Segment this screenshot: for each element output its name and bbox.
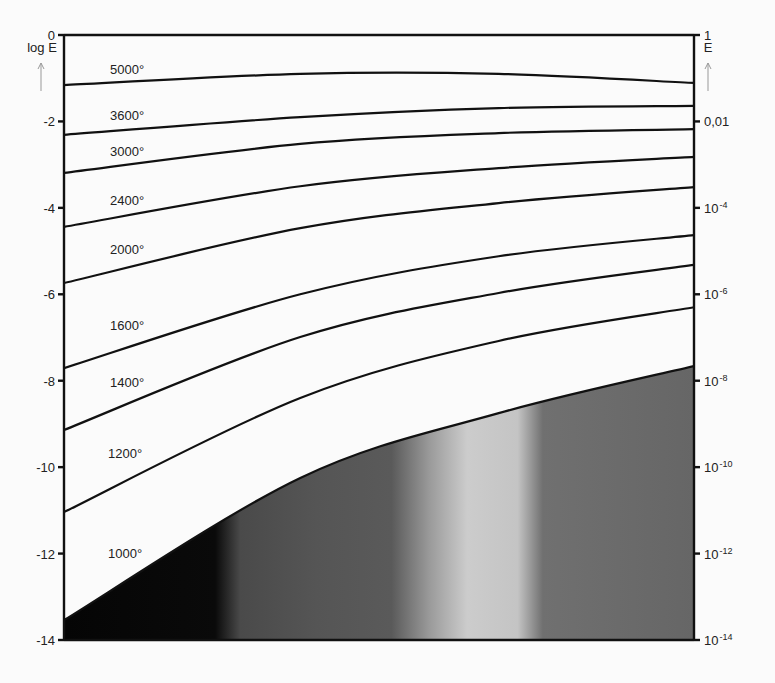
right-axis-e: 10,0110-410-610-810-1010-1210-14E: [694, 28, 732, 648]
right-tick-label: 0,01: [704, 114, 729, 129]
left-tick-label: -12: [36, 547, 55, 562]
curve-label: 2000°: [110, 242, 144, 257]
curve-label: 1400°: [110, 375, 144, 390]
curve-label: 5000°: [110, 62, 144, 77]
right-axis-title: E: [704, 40, 713, 55]
right-tick-label: 10-4: [704, 200, 727, 216]
left-tick-label: -6: [43, 287, 55, 302]
curve-label: 3600°: [110, 108, 144, 123]
curve-1600-deg: [64, 235, 694, 368]
left-tick-label: -2: [43, 114, 55, 129]
left-axis-title: log E: [27, 40, 57, 55]
right-tick-label: 10-12: [704, 546, 732, 562]
right-tick-label: 10-14: [704, 632, 732, 648]
curve-label: 2400°: [110, 193, 144, 208]
curve-5000-deg: [64, 73, 694, 86]
thermal-emission-chart: 0-2-4-6-8-10-12-14log E 10,0110-410-610-…: [0, 0, 775, 683]
left-tick-label: -14: [36, 633, 55, 648]
spectrum-fill-area: [64, 366, 694, 640]
curve-label: 1200°: [108, 446, 142, 461]
left-tick-label: -8: [43, 374, 55, 389]
right-tick-label: 10-6: [704, 286, 727, 302]
curve-2000-deg: [64, 187, 694, 283]
left-tick-label: -4: [43, 201, 55, 216]
right-tick-label: 10-8: [704, 373, 727, 389]
left-tick-label: -10: [36, 460, 55, 475]
right-tick-label: 10-10: [704, 459, 732, 475]
curve-label: 1000°: [108, 546, 142, 561]
spectrum-fill: [64, 366, 694, 640]
left-axis-log-e: 0-2-4-6-8-10-12-14log E: [27, 28, 64, 648]
curve-label: 1600°: [110, 318, 144, 333]
curve-label: 3000°: [110, 144, 144, 159]
curve-3000-deg: [64, 129, 694, 173]
